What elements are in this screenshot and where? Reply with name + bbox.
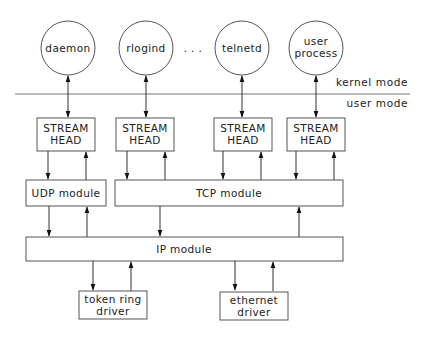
kernel-mode-label: kernel mode	[336, 76, 408, 88]
process-label-line2: process	[294, 47, 337, 59]
stream-head-label-line2: HEAD	[50, 134, 81, 146]
ethernet-driver: ethernet driver	[220, 292, 288, 320]
stream-head-label-line2: HEAD	[300, 134, 331, 146]
udp-module: UDP module	[26, 180, 106, 206]
streams-diagram: daemon rlogind . . . telnetd user proces…	[0, 0, 423, 340]
process-user-process: user process	[289, 21, 343, 75]
stream-head-label-line1: STREAM	[43, 122, 89, 134]
stream-head-label-line2: HEAD	[129, 134, 160, 146]
driver-label-line1: ethernet	[230, 294, 278, 306]
stream-head-daemon: STREAM HEAD	[37, 118, 95, 151]
process-rlogind: rlogind	[119, 21, 173, 75]
stream-head-user: STREAM HEAD	[287, 118, 345, 151]
process-telnetd: telnetd	[215, 21, 269, 75]
driver-label-line1: token ring	[84, 293, 141, 305]
stream-head-label-line1: STREAM	[122, 122, 168, 134]
udp-module-label: UDP module	[32, 187, 101, 199]
user-mode-label: user mode	[347, 97, 408, 109]
stream-head-label-line2: HEAD	[227, 134, 258, 146]
stream-head-telnetd: STREAM HEAD	[214, 118, 272, 151]
stream-head-label-line1: STREAM	[293, 122, 339, 134]
driver-label-line2: driver	[237, 306, 271, 318]
token-ring-driver: token ring driver	[79, 291, 147, 319]
process-label: daemon	[45, 42, 90, 54]
stream-head-rlogind: STREAM HEAD	[116, 118, 174, 151]
process-label-line1: user	[304, 35, 329, 47]
process-label: rlogind	[126, 42, 165, 54]
driver-label-line2: driver	[96, 305, 130, 317]
stream-head-label-line1: STREAM	[220, 122, 266, 134]
ip-module: IP module	[26, 237, 343, 261]
process-label: telnetd	[222, 42, 262, 54]
tcp-module: TCP module	[115, 180, 343, 206]
ellipsis: . . .	[184, 42, 203, 54]
tcp-module-label: TCP module	[195, 187, 262, 199]
ip-module-label: IP module	[156, 243, 212, 255]
process-daemon: daemon	[41, 21, 95, 75]
